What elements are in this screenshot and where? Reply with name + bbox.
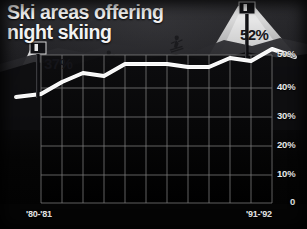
y-axis-label-10: 10% bbox=[277, 168, 295, 179]
y-axis-label-40: 40% bbox=[277, 81, 295, 92]
y-axis-label-30: 30% bbox=[277, 110, 295, 121]
x-axis-label-start: '80-'81 bbox=[26, 209, 52, 219]
callout-end-value: 52% bbox=[240, 26, 268, 43]
y-axis-label-0: 0 bbox=[290, 196, 295, 207]
y-axis-label-20: 20% bbox=[277, 139, 295, 150]
page-title: Ski areas offering night skiing bbox=[7, 2, 217, 42]
infographic-chart: Ski areas offering night skiing 37% 52% … bbox=[0, 0, 307, 229]
y-axis-label-50: 50% bbox=[277, 48, 295, 59]
title-line-2: night skiing bbox=[7, 22, 217, 42]
title-line-1: Ski areas offering bbox=[7, 2, 217, 22]
callout-start-value: 37% bbox=[44, 55, 72, 72]
x-axis-label-end: '91-'92 bbox=[246, 209, 272, 219]
